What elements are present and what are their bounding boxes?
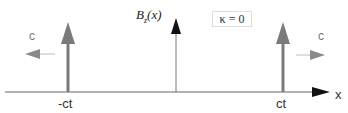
diagram-canvas — [0, 0, 348, 113]
right-pulse-arrowhead-icon — [276, 22, 290, 44]
y-axis-arrowhead-icon — [171, 18, 181, 34]
y-axis-label: Bz(x) — [136, 8, 162, 25]
left-pulse-arrowhead-icon — [61, 22, 75, 44]
right-velocity-arrow-icon — [310, 50, 325, 60]
left-velocity-arrow-icon — [25, 49, 40, 59]
x-axis-label: x — [335, 88, 342, 101]
y-label-arg: (x) — [147, 7, 161, 22]
left-pulse-label: -ct — [58, 97, 72, 110]
x-axis-arrowhead-icon — [312, 87, 330, 97]
y-label-main: B — [136, 7, 144, 22]
right-pulse-label: ct — [276, 97, 286, 110]
right-velocity-label: c — [318, 30, 324, 42]
left-velocity-label: c — [29, 30, 35, 42]
kappa-label: κ = 0 — [212, 11, 252, 27]
